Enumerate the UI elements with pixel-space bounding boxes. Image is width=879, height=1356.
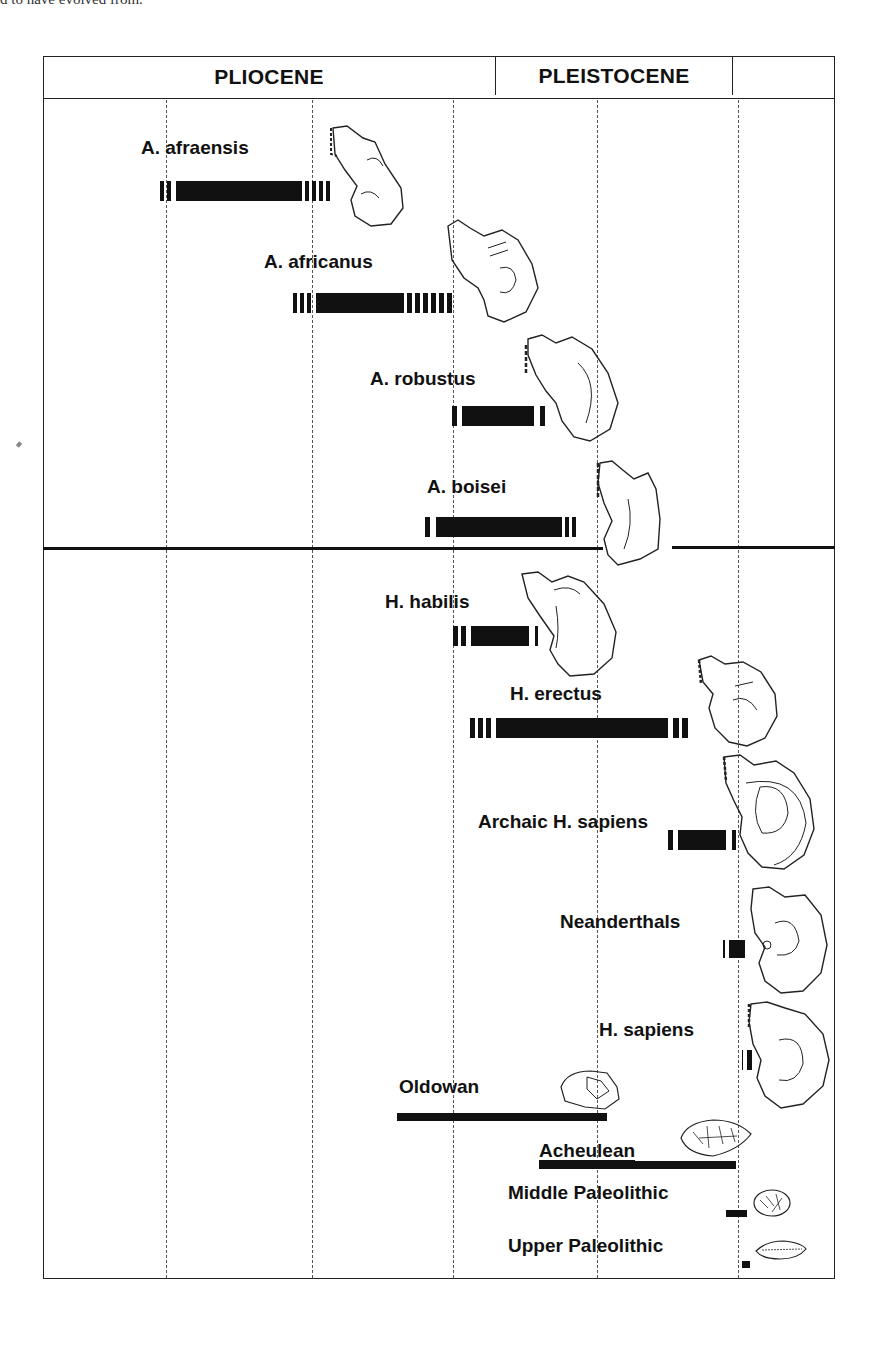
skull-icon-h-sapiens	[745, 1000, 831, 1110]
stone-tool-icon-middle-paleolithic	[752, 1188, 792, 1218]
species-label-h-habilis: H. habilis	[385, 591, 469, 613]
species-label-archaic-h-sapiens: Archaic H. sapiens	[478, 811, 648, 833]
species-label-neanderthals: Neanderthals	[560, 911, 680, 933]
epoch-pliocene: PLIOCENE	[43, 56, 495, 98]
stone-tool-icon-oldowan	[557, 1067, 623, 1111]
species-label-h-erectus: H. erectus	[510, 683, 602, 705]
stone-tool-icon-upper-paleolithic	[754, 1239, 808, 1261]
tool-label-upper-paleolithic: Upper Paleolithic	[508, 1235, 663, 1257]
skull-icon-a-robustus	[522, 333, 622, 443]
range-bar-h-erectus	[470, 718, 688, 738]
time-gridline-1	[166, 100, 167, 1278]
range-bar-middle-paleolithic	[726, 1210, 747, 1217]
range-bar-acheulean	[539, 1161, 736, 1169]
skull-icon-a-boisei	[594, 459, 666, 569]
stone-tool-icon-acheulean	[677, 1118, 753, 1158]
skull-icon-a-africanus	[444, 216, 540, 326]
epoch-pleistocene: PLEISTOCENE	[495, 56, 733, 95]
range-bar-a-africanus	[293, 293, 452, 313]
range-bar-oldowan	[397, 1113, 607, 1121]
epoch-header: PLIOCENE PLEISTOCENE	[43, 56, 835, 99]
species-label-a-robustus: A. robustus	[370, 368, 476, 390]
range-bar-a-boisei	[425, 517, 576, 537]
scan-artifact-mark	[16, 441, 22, 447]
genus-divider-right	[672, 546, 835, 549]
range-bar-a-afraensis	[160, 181, 330, 201]
tool-label-acheulean: Acheulean	[539, 1140, 635, 1162]
range-bar-upper-paleolithic	[742, 1261, 750, 1268]
tool-label-oldowan: Oldowan	[399, 1076, 479, 1098]
time-gridline-2	[312, 100, 313, 1278]
species-label-a-africanus: A. africanus	[264, 251, 373, 273]
species-label-a-afraensis: A. afraensis	[141, 137, 249, 159]
range-bar-neanderthals	[723, 940, 745, 958]
cropped-caption-text: d to have evolved from.	[0, 0, 143, 8]
skull-icon-h-erectus	[697, 654, 779, 746]
skull-icon-archaic-h-sapiens	[720, 753, 815, 871]
tool-label-middle-paleolithic: Middle Paleolithic	[508, 1182, 668, 1204]
genus-divider-left	[43, 547, 603, 550]
skull-icon-a-afraensis	[327, 124, 409, 229]
species-label-h-sapiens: H. sapiens	[599, 1019, 694, 1041]
skull-icon-neanderthals	[745, 885, 829, 995]
skull-icon-h-habilis	[520, 570, 618, 678]
species-label-a-boisei: A. boisei	[427, 476, 506, 498]
